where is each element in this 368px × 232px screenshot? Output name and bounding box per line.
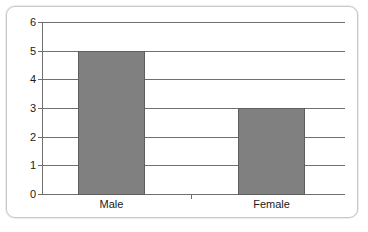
y-axis-label-0: 0: [8, 189, 36, 200]
y-axis-label-2: 2: [8, 132, 36, 143]
y-axis-label-4: 4: [8, 74, 36, 85]
y-tick-mark-3: [38, 108, 42, 109]
gridline-6: [42, 22, 345, 23]
bar-chart: 0 1 2 3 4 5 6 Male Female: [0, 0, 368, 232]
y-axis-label-3: 3: [8, 103, 36, 114]
x-axis-label-male: Male: [78, 199, 145, 210]
y-tick-mark-6: [38, 22, 42, 23]
y-tick-mark-2: [38, 137, 42, 138]
y-tick-mark-0: [38, 194, 42, 195]
y-axis-line: [42, 22, 43, 195]
y-axis-label-5: 5: [8, 46, 36, 57]
y-axis-label-1: 1: [8, 160, 36, 171]
y-tick-mark-5: [38, 51, 42, 52]
x-axis-tick: [191, 194, 192, 199]
x-axis-label-female: Female: [238, 199, 305, 210]
y-tick-mark-4: [38, 79, 42, 80]
bar-male: [78, 51, 145, 195]
y-tick-mark-1: [38, 165, 42, 166]
y-axis-label-6: 6: [8, 17, 36, 28]
bar-female: [238, 108, 305, 195]
